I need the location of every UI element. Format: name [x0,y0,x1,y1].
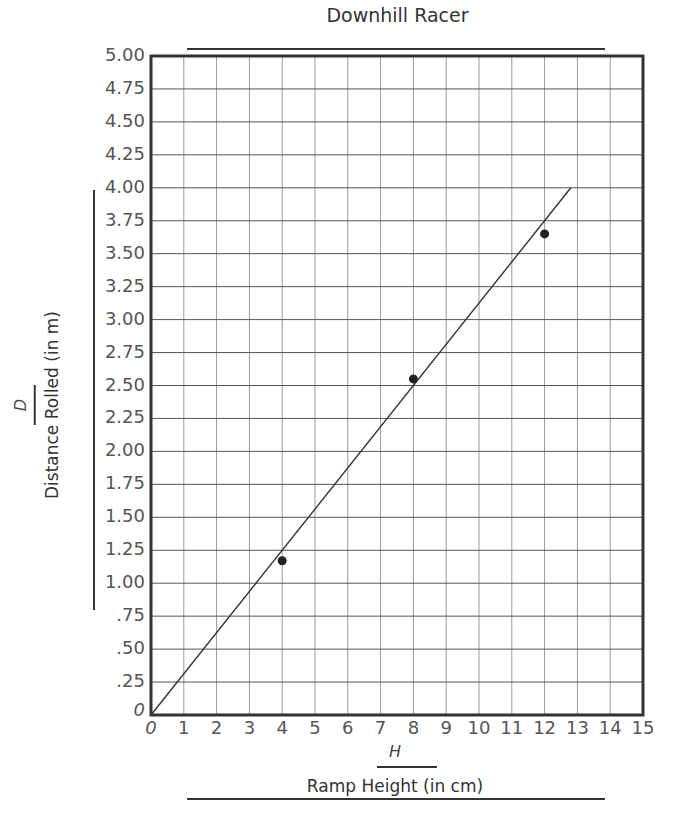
y-axis-label-underline [93,190,95,610]
x-tick-label: 6 [333,719,363,737]
y-tick-label: 4.00 [75,178,145,196]
x-tick-label: 2 [202,719,232,737]
x-tick-label: 3 [234,719,264,737]
x-tick-label: 13 [562,719,592,737]
y-tick-label: .75 [75,606,145,624]
x-tick-label: 0 [136,719,166,737]
x-tick-label: 11 [497,719,527,737]
data-point [278,556,287,565]
y-tick-label: 3.00 [75,310,145,328]
x-tick-label: 1 [169,719,199,737]
x-tick-label: 7 [366,719,396,737]
y-tick-label: 2.50 [75,376,145,394]
x-tick-label: 4 [267,719,297,737]
x-tick-label: 15 [628,719,658,737]
y-variable-symbol: D [11,195,30,615]
y-tick-label: 0 [75,701,145,719]
y-tick-label: 5.00 [75,46,145,64]
y-variable-underline [34,385,36,425]
y-tick-label: 4.25 [75,145,145,163]
y-tick-label: 4.50 [75,112,145,130]
y-tick-label: 1.00 [75,573,145,591]
y-tick-label: 2.75 [75,343,145,361]
y-axis-label: Distance Rolled (in m) [41,195,61,615]
y-tick-label: 2.00 [75,441,145,459]
x-axis-label-underline [187,798,605,800]
y-tick-label: 1.25 [75,540,145,558]
y-tick-label: 4.75 [75,79,145,97]
y-tick-label: 1.75 [75,474,145,492]
x-tick-label: 8 [398,719,428,737]
x-variable-underline [377,766,437,768]
y-tick-label: 3.50 [75,244,145,262]
x-tick-label: 14 [595,719,625,737]
y-tick-label: 1.50 [75,507,145,525]
y-tick-label: 3.75 [75,211,145,229]
y-tick-label: .50 [75,639,145,657]
x-tick-label: 5 [300,719,330,737]
x-tick-label: 12 [530,719,560,737]
y-tick-label: .25 [75,672,145,690]
y-tick-label: 2.25 [75,408,145,426]
x-tick-label: 10 [464,719,494,737]
x-tick-label: 9 [431,719,461,737]
y-tick-label: 3.25 [75,277,145,295]
x-axis-label: Ramp Height (in cm) [230,776,560,796]
data-point [540,229,549,238]
x-variable-symbol: H [370,742,420,761]
